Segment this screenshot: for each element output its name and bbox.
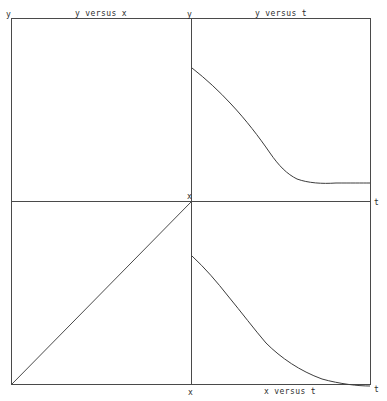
panel-bottom-right: x x x versus t t bbox=[187, 192, 379, 397]
t-axis-label-top-right: t bbox=[374, 198, 379, 207]
panel-title-top-right: y versus t bbox=[255, 9, 307, 18]
panel-bottom-left bbox=[12, 202, 191, 384]
x-axis-label-bottom: x bbox=[188, 388, 193, 397]
t-axis-label-bottom-right: t bbox=[374, 385, 379, 394]
plot-canvas: y y versus x y y versus t t x x x versus… bbox=[0, 0, 387, 401]
panel-top-right: y y versus t t bbox=[187, 9, 379, 207]
y-axis-label-top-right: y bbox=[187, 10, 192, 19]
panel-top-left: y y versus x bbox=[6, 9, 127, 19]
line-diagonal-bottom-left bbox=[12, 202, 191, 384]
panel-title-bottom-right: x versus t bbox=[264, 387, 316, 396]
quadrant-plot-figure: y y versus x y y versus t t x x x versus… bbox=[0, 0, 387, 401]
curve-y-versus-t bbox=[192, 68, 370, 183]
y-axis-label-top-left: y bbox=[6, 10, 11, 19]
curve-x-versus-t bbox=[192, 256, 370, 386]
x-axis-label-center: x bbox=[187, 192, 192, 201]
panel-title-top-left: y versus x bbox=[75, 9, 127, 18]
